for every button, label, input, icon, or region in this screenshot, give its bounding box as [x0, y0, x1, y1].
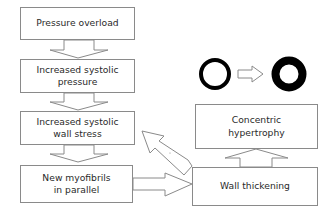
box-pressure-overload: Pressure overload — [20, 7, 135, 40]
box-concentric-hypertrophy: Concentric hypertrophy — [195, 104, 318, 149]
label-increased-systolic-wall-stress: Increased systolic wall stress — [36, 116, 118, 141]
thick-ring-icon — [276, 61, 303, 88]
arrow-down-2 — [50, 93, 108, 110]
label-pressure-overload: Pressure overload — [36, 17, 118, 30]
label-new-myofibrils: New myofibrils in parallel — [42, 172, 110, 197]
arrow-down-1 — [50, 40, 108, 58]
box-increased-systolic-pressure: Increased systolic pressure — [20, 59, 135, 93]
feedback-arrow — [142, 131, 192, 175]
label-wall-thickening: Wall thickening — [220, 180, 290, 193]
ring-transition-arrow — [238, 66, 263, 82]
box-wall-thickening: Wall thickening — [192, 167, 318, 206]
arrow-up-to-concentric-hypertrophy — [225, 149, 288, 167]
label-increased-systolic-pressure: Increased systolic pressure — [36, 64, 118, 89]
label-concentric-hypertrophy: Concentric hypertrophy — [228, 114, 284, 139]
feedback-arrow-mark — [169, 152, 170, 153]
arrow-right-to-wall-thickening — [133, 173, 192, 196]
box-new-myofibrils: New myofibrils in parallel — [20, 165, 133, 203]
thin-ring-icon — [201, 60, 229, 88]
arrow-down-3 — [50, 145, 108, 162]
box-increased-systolic-wall-stress: Increased systolic wall stress — [20, 111, 135, 145]
